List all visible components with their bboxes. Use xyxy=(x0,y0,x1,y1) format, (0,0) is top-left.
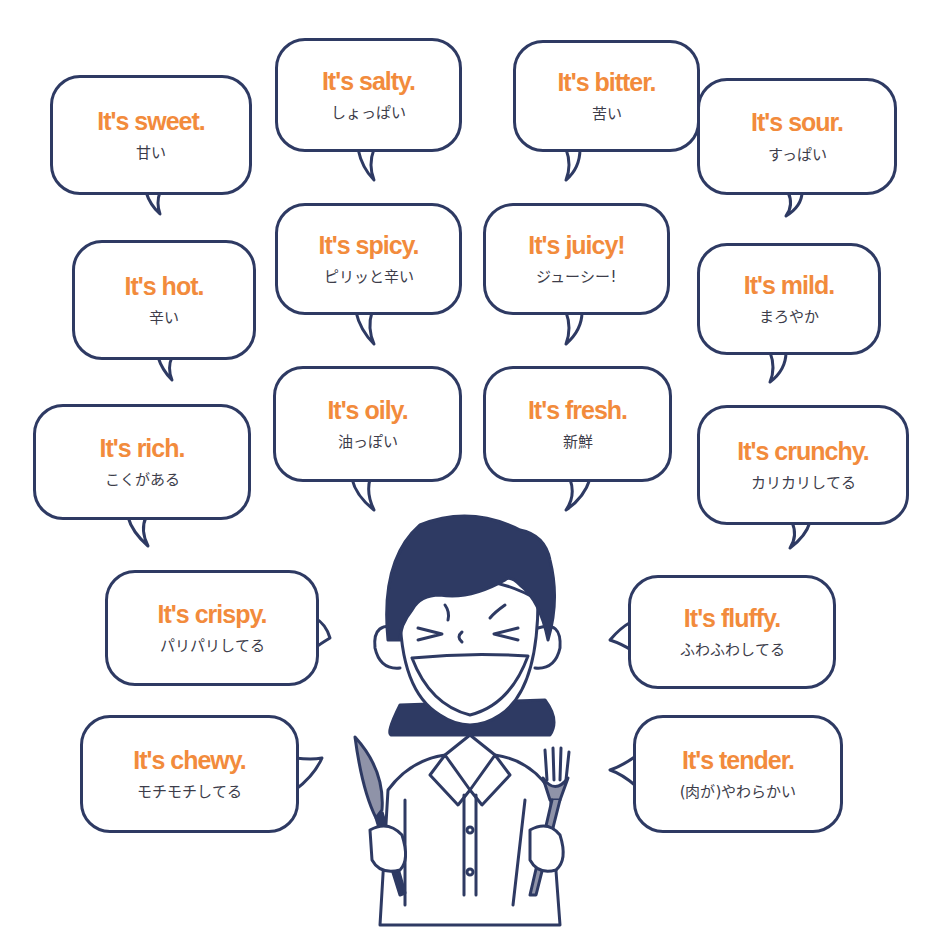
smiling-person-illustration xyxy=(0,0,930,932)
